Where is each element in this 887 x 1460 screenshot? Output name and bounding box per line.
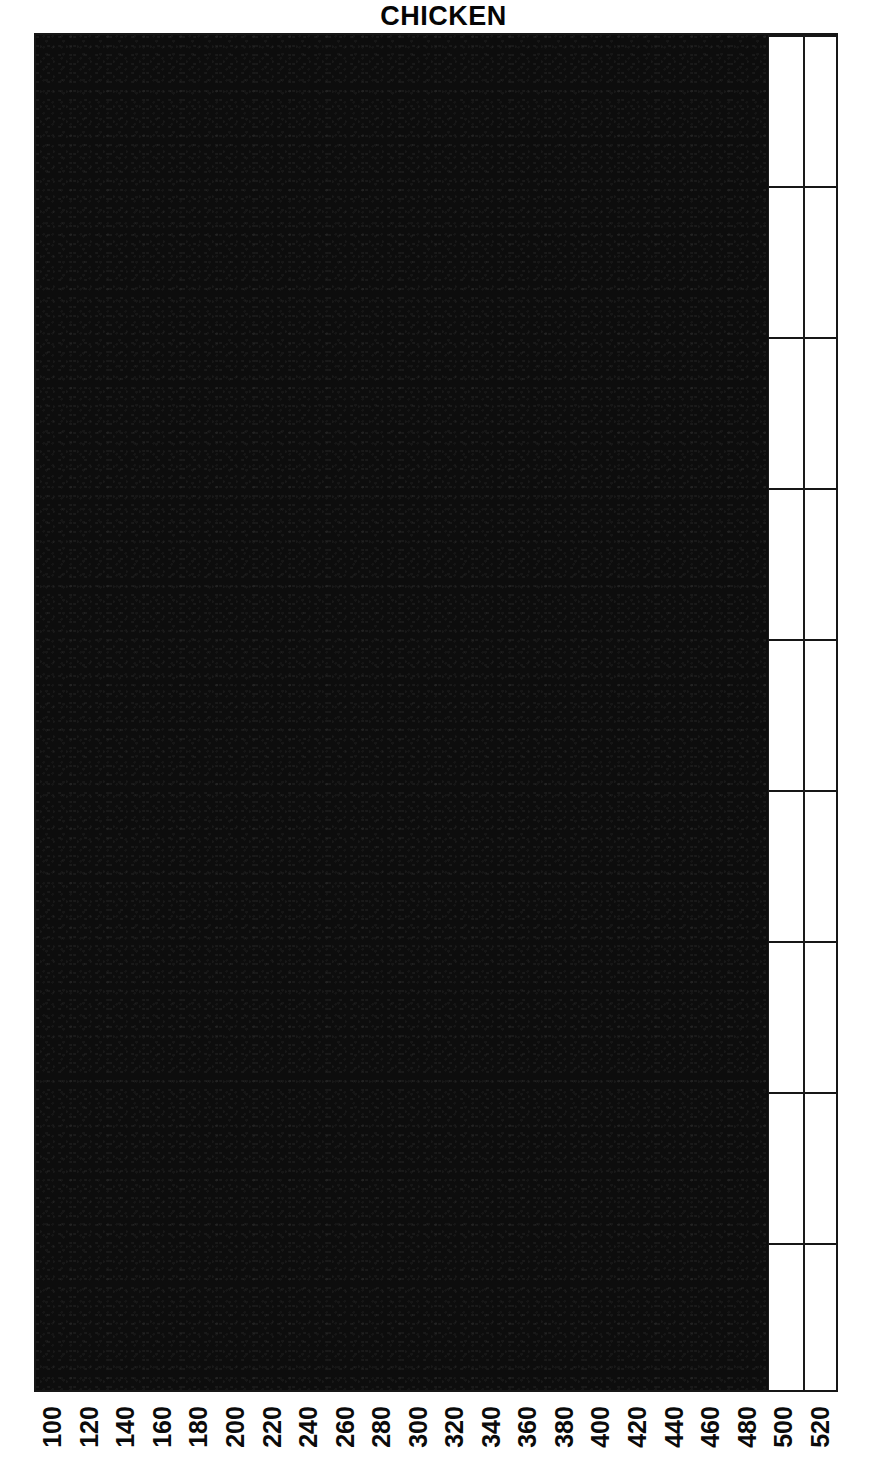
chart-figure: CHICKEN | 100120140160180200220240260280… — [0, 0, 887, 1460]
x-tick-380: 380 — [546, 1394, 583, 1460]
bar-320[interactable] — [438, 35, 475, 1392]
x-axis-tick-labels: 1001201401601802002202402602803003203403… — [34, 1394, 838, 1460]
x-tick-label: 420 — [622, 1406, 651, 1448]
gridline-vertical-520 — [803, 35, 805, 1390]
x-tick-label: 360 — [513, 1406, 542, 1448]
x-tick-label: 300 — [403, 1406, 432, 1448]
x-tick-420: 420 — [619, 1394, 656, 1460]
x-tick-500: 500 — [765, 1394, 802, 1460]
x-tick-520: 520 — [801, 1394, 838, 1460]
bar-240[interactable] — [292, 35, 329, 1392]
x-tick-240: 240 — [290, 1394, 327, 1460]
x-tick-320: 320 — [436, 1394, 473, 1460]
bar-300[interactable] — [401, 35, 438, 1392]
x-tick-label: 120 — [74, 1406, 103, 1448]
x-tick-label: 520 — [805, 1406, 834, 1448]
bar-280[interactable] — [365, 35, 402, 1392]
x-tick-label: 480 — [732, 1406, 761, 1448]
x-tick-440: 440 — [655, 1394, 692, 1460]
x-tick-label: 320 — [440, 1406, 469, 1448]
x-tick-label: 340 — [476, 1406, 505, 1448]
x-tick-460: 460 — [692, 1394, 729, 1460]
x-tick-label: 380 — [549, 1406, 578, 1448]
x-tick-220: 220 — [253, 1394, 290, 1460]
bar-360[interactable] — [511, 35, 548, 1392]
bar-480[interactable] — [730, 35, 767, 1392]
x-tick-200: 200 — [217, 1394, 254, 1460]
bar-460[interactable] — [694, 35, 731, 1392]
plot-area — [34, 33, 838, 1392]
bar-380[interactable] — [548, 35, 585, 1392]
bar-140[interactable] — [109, 35, 146, 1392]
x-tick-340: 340 — [473, 1394, 510, 1460]
bar-180[interactable] — [182, 35, 219, 1392]
chart-title: CHICKEN — [0, 0, 887, 32]
bar-160[interactable] — [146, 35, 183, 1392]
x-tick-label: 440 — [659, 1406, 688, 1448]
x-tick-300: 300 — [399, 1394, 436, 1460]
x-tick-label: 100 — [38, 1406, 67, 1448]
bar-120[interactable] — [73, 35, 110, 1392]
bar-340[interactable] — [475, 35, 512, 1392]
bar-400[interactable] — [584, 35, 621, 1392]
x-tick-120: 120 — [71, 1394, 108, 1460]
bar-220[interactable] — [255, 35, 292, 1392]
x-tick-180: 180 — [180, 1394, 217, 1460]
bar-440[interactable] — [657, 35, 694, 1392]
bar-200[interactable] — [219, 35, 256, 1392]
x-tick-label: 140 — [111, 1406, 140, 1448]
bar-100[interactable] — [36, 35, 73, 1392]
x-tick-260: 260 — [326, 1394, 363, 1460]
x-tick-400: 400 — [582, 1394, 619, 1460]
x-tick-280: 280 — [363, 1394, 400, 1460]
x-tick-160: 160 — [144, 1394, 181, 1460]
x-tick-label: 180 — [184, 1406, 213, 1448]
bar-260[interactable] — [328, 35, 365, 1392]
x-tick-label: 500 — [769, 1406, 798, 1448]
x-tick-480: 480 — [728, 1394, 765, 1460]
x-tick-label: 200 — [220, 1406, 249, 1448]
x-tick-label: 220 — [257, 1406, 286, 1448]
x-tick-label: 280 — [367, 1406, 396, 1448]
x-tick-label: 160 — [147, 1406, 176, 1448]
bar-420[interactable] — [621, 35, 658, 1392]
x-tick-140: 140 — [107, 1394, 144, 1460]
x-tick-label: 260 — [330, 1406, 359, 1448]
x-tick-label: 400 — [586, 1406, 615, 1448]
x-tick-360: 360 — [509, 1394, 546, 1460]
x-tick-label: 460 — [696, 1406, 725, 1448]
x-tick-100: 100 — [34, 1394, 71, 1460]
x-tick-label: 240 — [294, 1406, 323, 1448]
